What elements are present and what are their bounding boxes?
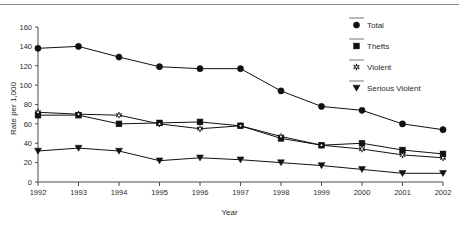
marker-asterisk: [354, 64, 360, 70]
x-tick-label: 1993: [70, 188, 87, 197]
marker-circle: [156, 64, 162, 70]
series-serious-violent: [35, 145, 447, 176]
marker-circle: [116, 54, 122, 60]
legend-label-1: Thefts: [367, 42, 389, 51]
x-tick-label: 2000: [354, 188, 371, 197]
series-violent: [35, 109, 446, 161]
marker-circle: [278, 88, 284, 94]
line-chart: 0204060801001201401601992199319941995199…: [0, 0, 459, 228]
marker-circle: [197, 66, 203, 72]
asterisk-center: [240, 125, 242, 127]
x-tick-label: 1996: [192, 188, 209, 197]
x-tick-label: 2002: [435, 188, 452, 197]
y-tick-label: 100: [19, 81, 32, 90]
x-axis-title: Year: [0, 208, 459, 217]
asterisk-center: [37, 111, 39, 113]
y-axis-title: Rate per 1,000: [9, 64, 18, 154]
x-tick-label: 2001: [394, 188, 411, 197]
x-tick-label: 1997: [232, 188, 249, 197]
asterisk-center: [118, 114, 120, 116]
marker-circle: [35, 45, 41, 51]
y-tick-label: 20: [24, 158, 32, 167]
y-tick-label: 160: [19, 23, 32, 32]
asterisk-center: [361, 148, 363, 150]
asterisk-center: [321, 144, 323, 146]
chart-figure: 0204060801001201401601992199319941995199…: [0, 0, 459, 228]
marker-circle: [440, 127, 446, 133]
marker-circle: [318, 103, 324, 109]
y-tick-label: 140: [19, 42, 32, 51]
asterisk-center: [280, 135, 282, 137]
x-tick-label: 1994: [111, 188, 128, 197]
legend-label-0: Total: [367, 21, 384, 30]
marker-square: [197, 119, 203, 125]
x-tick-label: 1998: [273, 188, 290, 197]
marker-square: [354, 43, 360, 49]
chart-legend: TotalTheftsViolentSerious Violent: [349, 18, 421, 93]
y-tick-label: 0: [28, 178, 32, 187]
marker-circle: [237, 66, 243, 72]
y-tick-label: 40: [24, 139, 32, 148]
marker-circle: [359, 107, 365, 113]
marker-triangle-down: [353, 85, 360, 91]
marker-circle: [75, 43, 81, 49]
asterisk-center: [199, 128, 201, 130]
marker-circle: [399, 121, 405, 127]
x-axis-ticks: 1992199319941995199619971998199920002001…: [30, 182, 452, 197]
x-tick-label: 1992: [30, 188, 47, 197]
y-tick-label: 80: [24, 100, 32, 109]
asterisk-center: [402, 154, 404, 156]
y-tick-label: 60: [24, 120, 32, 129]
asterisk-center: [78, 113, 80, 115]
x-tick-label: 1995: [151, 188, 168, 197]
series-polyline: [38, 115, 443, 154]
asterisk-center: [356, 66, 358, 68]
asterisk-center: [159, 123, 161, 125]
marker-circle: [353, 22, 359, 28]
x-tick-label: 1999: [313, 188, 330, 197]
legend-label-3: Serious Violent: [367, 84, 421, 93]
asterisk-center: [442, 157, 444, 159]
series-thefts: [35, 112, 446, 157]
marker-square: [116, 121, 122, 127]
y-tick-label: 120: [19, 62, 32, 71]
marker-square: [359, 140, 365, 146]
legend-label-2: Violent: [367, 63, 392, 72]
